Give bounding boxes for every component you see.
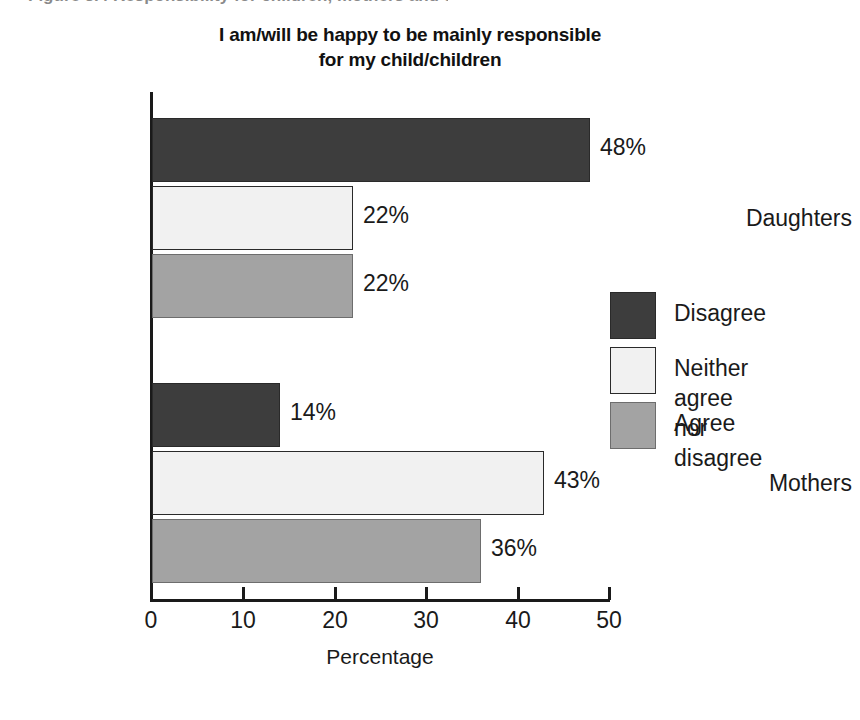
bar — [152, 451, 544, 515]
x-tick-mark — [608, 587, 611, 600]
x-axis-label: Percentage — [150, 645, 610, 669]
bar — [152, 186, 353, 250]
bar — [152, 118, 590, 182]
x-tick-label: 30 — [396, 607, 456, 634]
bar-value-label: 43% — [554, 467, 600, 494]
legend-item: Disagree — [610, 292, 766, 339]
x-tick-label: 10 — [213, 607, 273, 634]
category-label: Mothers — [714, 470, 860, 497]
bar — [152, 383, 280, 447]
x-tick-label: 0 — [121, 607, 181, 634]
figure-container: Figure 3.4 Responsibility for children, … — [0, 0, 860, 720]
legend-label: Agree — [674, 408, 735, 438]
x-tick-mark — [425, 587, 428, 600]
legend-swatch — [610, 347, 656, 394]
bar-value-label: 48% — [600, 134, 646, 161]
bar — [152, 519, 481, 583]
x-tick-mark — [334, 587, 337, 600]
legend-item: Agree — [610, 402, 735, 449]
x-tick-mark — [242, 587, 245, 600]
legend-swatch — [610, 292, 656, 339]
legend-label: Disagree — [674, 298, 766, 328]
x-axis-line — [150, 599, 610, 602]
x-tick-label: 20 — [305, 607, 365, 634]
legend-swatch — [610, 402, 656, 449]
x-tick-label: 40 — [488, 607, 548, 634]
x-tick-mark — [150, 587, 153, 600]
bar-value-label: 22% — [363, 270, 409, 297]
bar-value-label: 36% — [491, 535, 537, 562]
category-label: Daughters — [714, 205, 860, 232]
bar — [152, 254, 353, 318]
bar-value-label: 14% — [290, 399, 336, 426]
x-tick-label: 50 — [579, 607, 639, 634]
bar-value-label: 22% — [363, 202, 409, 229]
x-tick-mark — [517, 587, 520, 600]
